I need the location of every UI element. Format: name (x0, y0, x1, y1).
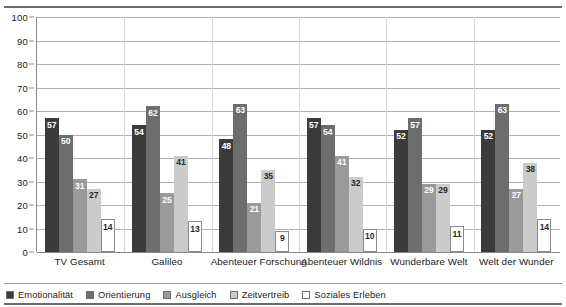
legend-label: Orientierung (98, 290, 150, 300)
legend-swatch-icon (163, 291, 171, 299)
y-axis-tick-label: 10 (17, 223, 28, 234)
y-axis-tick-mark (29, 158, 34, 159)
bar: 62 (146, 106, 160, 252)
bar-value-label: 32 (351, 177, 360, 188)
gridline-0 (37, 252, 560, 253)
y-axis-tick-mark (29, 134, 34, 135)
bar-value-label: 50 (61, 135, 70, 146)
y-axis-tick-label: 20 (17, 200, 28, 211)
bar-value-label: 57 (309, 118, 318, 129)
bar-value-label: 14 (540, 220, 549, 231)
legend-swatch-icon (6, 291, 14, 299)
bar: 14 (101, 219, 115, 252)
bar-group: 5754413210 (298, 17, 385, 252)
bar-value-label: 29 (424, 184, 433, 195)
x-axis-category-label: Welt der Wunder (473, 256, 560, 267)
legend-swatch-icon (86, 291, 94, 299)
bar: 27 (509, 189, 523, 252)
bar-value-label: 13 (190, 222, 199, 233)
y-axis-tick-label: 50 (17, 129, 28, 140)
chart-legend: EmotionalitätOrientierungAusgleichZeitve… (6, 288, 386, 301)
x-axis-category-label: Abenteuer Forschung (211, 256, 298, 267)
y-axis: 1009080706050403020100 (0, 17, 34, 252)
bar: 35 (261, 170, 275, 252)
bar-groups: 5750312714546225411348632135957544132105… (36, 17, 560, 252)
legend-item[interactable]: Emotionalität (6, 290, 73, 300)
bar-value-label: 29 (438, 184, 447, 195)
y-axis-tick-label: 90 (17, 35, 28, 46)
bar: 57 (408, 118, 422, 252)
bar: 41 (174, 156, 188, 252)
bar-value-label: 48 (222, 139, 231, 150)
y-axis-tick-mark (29, 111, 34, 112)
bar-group: 5257292911 (385, 17, 472, 252)
bar: 29 (436, 184, 450, 252)
legend-label: Zeitvertreib (242, 290, 290, 300)
bar-value-label: 38 (526, 163, 535, 174)
bar: 50 (59, 135, 73, 253)
bar: 27 (87, 189, 101, 252)
bar-value-label: 35 (264, 170, 273, 181)
y-axis-tick-mark (29, 40, 34, 41)
bar-value-label: 52 (484, 130, 493, 141)
bar: 57 (45, 118, 59, 252)
y-axis-tick-label: 60 (17, 106, 28, 117)
bar-value-label: 57 (47, 118, 56, 129)
legend-bottom-rule (4, 303, 562, 305)
y-axis-tick-mark (29, 64, 34, 65)
bar: 9 (275, 231, 289, 252)
bar-group: 5750312714 (36, 17, 123, 252)
bar-value-label: 27 (512, 189, 521, 200)
bar: 54 (132, 125, 146, 252)
bar: 41 (335, 156, 349, 252)
bar-value-label: 14 (103, 220, 112, 231)
bar: 38 (523, 163, 537, 252)
y-axis-tick-mark (29, 87, 34, 88)
y-axis-tick-mark (29, 252, 34, 253)
bar-value-label: 10 (365, 230, 374, 241)
bar: 14 (537, 219, 551, 252)
bar-value-label: 63 (236, 104, 245, 115)
bar-group: 486321359 (211, 17, 298, 252)
bar: 52 (394, 130, 408, 252)
legend-swatch-icon (302, 291, 310, 299)
x-axis-category-label: TV Gesamt (36, 256, 123, 267)
bar: 29 (422, 184, 436, 252)
bar-value-label: 54 (323, 125, 332, 136)
y-axis-tick-label: 70 (17, 82, 28, 93)
legend-top-rule (4, 283, 562, 284)
bar: 21 (247, 203, 261, 252)
legend-item[interactable]: Zeitvertreib (230, 290, 290, 300)
bar-value-label: 54 (134, 125, 143, 136)
bar: 54 (321, 125, 335, 252)
y-axis-tick-label: 0 (23, 247, 28, 258)
y-axis-tick-label: 30 (17, 176, 28, 187)
x-axis-category-label: Galileo (123, 256, 210, 267)
legend-item[interactable]: Ausgleich (163, 290, 216, 300)
legend-label: Soziales Erleben (314, 290, 385, 300)
bar-value-label: 25 (162, 193, 171, 204)
bar: 10 (363, 229, 377, 253)
bar-chart: 1009080706050403020100 57503127145462254… (0, 0, 566, 307)
bar-value-label: 52 (396, 130, 405, 141)
legend-label: Ausgleich (175, 290, 216, 300)
legend-item[interactable]: Soziales Erleben (302, 290, 385, 300)
bar-value-label: 57 (410, 118, 419, 129)
bar-value-label: 41 (337, 156, 346, 167)
bar: 13 (188, 221, 202, 252)
bar-value-label: 41 (176, 156, 185, 167)
top-divider-rule (4, 6, 562, 8)
legend-item[interactable]: Orientierung (86, 290, 150, 300)
bar: 25 (160, 193, 174, 252)
bar-value-label: 63 (498, 104, 507, 115)
bar: 63 (233, 104, 247, 252)
bar: 32 (349, 177, 363, 252)
x-axis-category-label: Wunderbare Welt (385, 256, 472, 267)
bar: 48 (219, 139, 233, 252)
bar: 31 (73, 179, 87, 252)
bar: 63 (495, 104, 509, 252)
x-axis-category-labels: TV GesamtGalileoAbenteuer ForschungAbent… (36, 256, 560, 272)
bar-group: 5462254113 (123, 17, 210, 252)
y-axis-tick-label: 100 (12, 12, 28, 23)
bar: 52 (481, 130, 495, 252)
